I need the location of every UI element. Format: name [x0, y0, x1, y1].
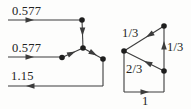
- current-label-lower-leg: 2/3: [126, 62, 143, 76]
- node-dot: [79, 17, 85, 23]
- current-label-top-leg: 1/3: [122, 26, 139, 40]
- flow-arrowhead-icon: [26, 54, 35, 60]
- flow-arrowhead-icon: [88, 49, 97, 56]
- node-dot: [59, 55, 65, 61]
- flow-arrowhead-icon: [161, 41, 167, 50]
- delta-current-diagram: 1/31/32/31: [121, 23, 183, 108]
- node-dot: [161, 68, 167, 74]
- node-dot: [100, 56, 106, 62]
- node-dot: [161, 23, 167, 29]
- current-label-line: 1: [142, 94, 148, 108]
- flow-arrowhead-icon: [146, 30, 155, 37]
- flow-arrowhead-icon: [26, 83, 35, 89]
- figure-canvas: 0.5770.5771.151/31/32/31: [0, 0, 191, 109]
- flow-arrowhead-icon: [144, 61, 153, 67]
- current-label-return: 1.15: [11, 69, 34, 83]
- current-label-mid: 0.577: [12, 41, 41, 55]
- wye-current-diagram: 0.5770.5771.15: [8, 4, 106, 89]
- node-dot: [80, 45, 86, 51]
- flow-arrowhead-icon: [26, 17, 35, 23]
- flow-arrowhead-icon: [80, 28, 86, 37]
- node-dot: [121, 48, 127, 54]
- current-label-top: 0.577: [12, 4, 41, 18]
- current-label-right-leg: 1/3: [167, 40, 184, 54]
- flow-arrowhead-icon: [67, 52, 76, 58]
- winding-current-figure: 0.5770.5771.151/31/32/31: [0, 0, 191, 109]
